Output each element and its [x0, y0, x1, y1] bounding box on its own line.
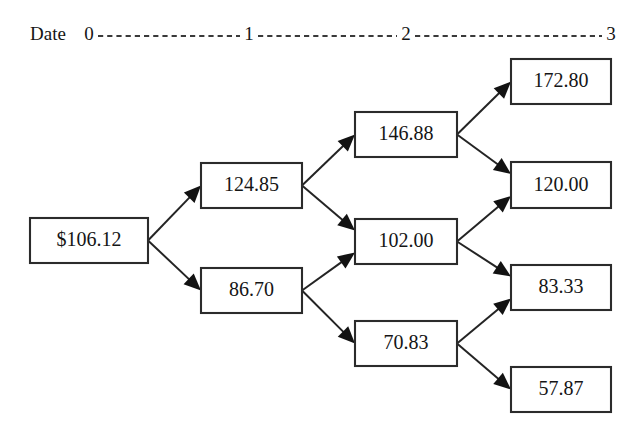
tree-node-n1d: 86.70	[201, 268, 302, 313]
tree-edge-n0-to-n1u	[148, 196, 191, 241]
tree-node-n3ddd: 57.87	[511, 367, 611, 412]
arrowhead-n2ud-to-n3udd	[493, 261, 511, 276]
tree-edge-n1u-to-n2uu	[302, 144, 345, 185]
arrowhead-n2ud-to-n3uud	[493, 196, 511, 213]
axis-title: Date	[30, 23, 66, 44]
tree-edge-n2ud-to-n3uud	[457, 205, 500, 241]
tree-edge-n2dd-to-n3udd	[457, 307, 500, 343]
tree-node-n3uud: 120.00	[511, 162, 611, 208]
tree-node-n0: $106.12	[30, 218, 148, 263]
node-value-n3udd: 83.33	[539, 275, 584, 297]
arrowhead-n1d-to-n2ud	[337, 253, 355, 269]
tree-nodes: $106.12124.8586.70146.88102.0070.83172.8…	[30, 59, 611, 412]
date-axis: Date0123	[30, 23, 616, 44]
tree-node-n2ud: 102.00	[355, 219, 457, 264]
node-value-n2uu: 146.88	[379, 122, 434, 144]
tree-edge-n1u-to-n2ud	[302, 186, 344, 222]
axis-tick-label-0: 0	[84, 23, 94, 44]
tree-node-n3udd: 83.33	[511, 265, 611, 310]
node-value-n1u: 124.85	[224, 173, 279, 195]
arrowhead-n2uu-to-n3uud	[493, 158, 511, 174]
arrowhead-n1u-to-n2ud	[337, 214, 355, 231]
tree-node-n2dd: 70.83	[355, 321, 457, 366]
node-value-n3ddd: 57.87	[539, 377, 584, 399]
node-value-n1d: 86.70	[229, 278, 274, 300]
tree-edge-n1d-to-n2dd	[302, 291, 345, 334]
arrowhead-n2dd-to-n3ddd	[493, 373, 511, 390]
tree-node-n2uu: 146.88	[355, 112, 457, 157]
axis-tick-label-1: 1	[244, 23, 254, 44]
tree-edge-n2uu-to-n3uuu	[457, 91, 501, 134]
tree-node-n1u: 124.85	[201, 163, 302, 208]
binomial-tree-diagram: Date0123 $106.12124.8586.70146.88102.007…	[0, 0, 639, 433]
node-value-n2ud: 102.00	[379, 229, 434, 251]
node-value-n2dd: 70.83	[384, 331, 429, 353]
tree-node-n3uuu: 172.80	[511, 59, 611, 104]
arrowhead-n2dd-to-n3udd	[493, 299, 511, 316]
tree-edge-n2uu-to-n3uud	[457, 135, 500, 166]
tree-edge-n2dd-to-n3ddd	[457, 344, 500, 381]
axis-tick-label-2: 2	[401, 23, 411, 44]
axis-tick-label-3: 3	[606, 23, 616, 44]
tree-edge-n0-to-n1d	[148, 241, 191, 281]
node-value-n0: $106.12	[57, 228, 122, 250]
node-value-n3uuu: 172.80	[534, 69, 589, 91]
binomial-tree-canvas: Date0123 $106.12124.8586.70146.88102.007…	[0, 0, 639, 433]
node-value-n3uud: 120.00	[534, 173, 589, 195]
tree-edge-n1d-to-n2ud	[302, 261, 344, 291]
tree-edge-n2ud-to-n3udd	[457, 242, 499, 269]
